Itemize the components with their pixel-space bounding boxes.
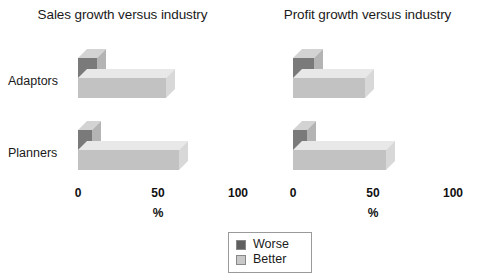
- x-axis-label-profit: %: [368, 206, 379, 220]
- plot-area-profit: [245, 36, 490, 186]
- legend-label-worse: Worse: [253, 237, 289, 252]
- legend-item-better: Better: [236, 252, 304, 267]
- chart-title-sales: Sales growth versus industry: [0, 7, 245, 22]
- bar-front-face: [78, 78, 166, 98]
- bar-top-face: [78, 141, 188, 150]
- bar-top-face: [293, 69, 374, 78]
- x-tick-50: 50: [366, 186, 379, 200]
- legend-swatch-worse-icon: [236, 240, 246, 250]
- category-label-planners: Planners: [8, 146, 70, 160]
- bar-top-face: [293, 141, 395, 150]
- bar-profit-planners-better: [293, 150, 386, 170]
- legend-item-worse: Worse: [236, 237, 304, 252]
- x-axis-label-sales: %: [153, 206, 164, 220]
- chart-legend: Worse Better: [228, 232, 312, 273]
- x-tick-0: 0: [290, 186, 297, 200]
- x-axis-profit: 0 50 100 %: [245, 186, 490, 232]
- category-label-adaptors: Adaptors: [8, 74, 70, 88]
- chart-title-profit: Profit growth versus industry: [245, 7, 490, 22]
- x-tick-100: 100: [443, 186, 463, 200]
- bar-front-face: [78, 150, 179, 170]
- bar-sales-planners-better: [78, 150, 179, 170]
- bar-profit-adaptors-better: [293, 78, 365, 98]
- chart-panel-profit: Profit growth versus industry: [245, 0, 490, 232]
- plot-area-sales: Adaptors Planners: [0, 36, 245, 186]
- legend-label-better: Better: [253, 252, 286, 267]
- x-tick-50: 50: [151, 186, 164, 200]
- x-axis-sales: 0 50 100 %: [0, 186, 245, 232]
- bar-top-face: [78, 69, 175, 78]
- bar-front-face: [293, 150, 386, 170]
- chart-panel-sales: Sales growth versus industry Adaptors Pl…: [0, 0, 245, 232]
- bar-sales-adaptors-better: [78, 78, 166, 98]
- legend-swatch-better-icon: [236, 255, 246, 265]
- growth-versus-industry-figure: Sales growth versus industry Adaptors Pl…: [0, 0, 490, 278]
- bar-front-face: [293, 78, 365, 98]
- x-tick-0: 0: [75, 186, 82, 200]
